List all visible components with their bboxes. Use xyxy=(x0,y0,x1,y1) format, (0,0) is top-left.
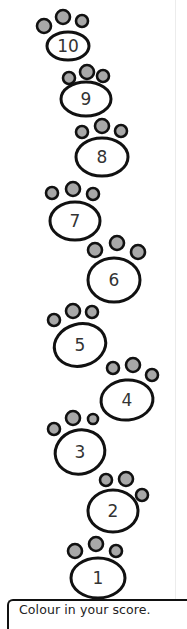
paw-print-2[interactable]: 2 xyxy=(88,472,148,532)
toe-icon xyxy=(110,545,122,557)
caption-text: Colour in your score. xyxy=(19,602,151,617)
paw-print-5[interactable]: 5 xyxy=(48,304,111,372)
toe-icon xyxy=(66,304,80,318)
toe-icon xyxy=(48,314,60,326)
score-number: 6 xyxy=(109,270,120,290)
toe-icon xyxy=(68,544,82,558)
toe-icon xyxy=(119,472,133,486)
toe-icon xyxy=(136,489,148,501)
paw-print-3[interactable]: 3 xyxy=(48,411,110,480)
toe-icon xyxy=(76,126,88,138)
toe-icon xyxy=(80,65,94,79)
toe-icon xyxy=(37,19,51,33)
toe-icon xyxy=(66,182,80,196)
toe-icon xyxy=(107,362,119,374)
toe-icon xyxy=(126,358,140,372)
paw-print-10[interactable]: 10 xyxy=(37,10,89,60)
toe-icon xyxy=(131,245,145,259)
toe-icon xyxy=(56,10,70,24)
score-number: 3 xyxy=(75,442,86,462)
toe-icon xyxy=(89,537,103,551)
toe-icon xyxy=(66,411,80,425)
toe-icon xyxy=(95,119,109,133)
score-number: 10 xyxy=(57,36,79,56)
toe-icon xyxy=(86,306,98,318)
toe-icon xyxy=(88,243,102,257)
score-number: 2 xyxy=(108,501,119,521)
toe-icon xyxy=(76,15,88,27)
paw-print-8[interactable]: 8 xyxy=(76,119,128,176)
score-number: 7 xyxy=(70,211,81,231)
paw-print-9[interactable]: 9 xyxy=(61,65,111,116)
toe-icon xyxy=(46,187,58,199)
toe-icon xyxy=(110,236,124,250)
score-number: 1 xyxy=(93,568,104,588)
toe-icon xyxy=(100,474,112,486)
toe-icon xyxy=(63,72,75,84)
toe-icon xyxy=(48,423,60,435)
score-number: 8 xyxy=(97,147,108,167)
paw-print-7[interactable]: 7 xyxy=(46,182,100,240)
paw-print-4[interactable]: 4 xyxy=(99,358,158,422)
score-number: 9 xyxy=(81,89,92,109)
toe-icon xyxy=(87,188,99,200)
score-number: 5 xyxy=(75,335,86,355)
toe-icon xyxy=(97,70,109,82)
toe-icon xyxy=(115,125,127,137)
paw-print-6[interactable]: 6 xyxy=(88,236,145,302)
toe-icon xyxy=(146,369,158,381)
paw-print-1[interactable]: 1 xyxy=(68,537,125,598)
score-number: 4 xyxy=(122,390,133,410)
toe-icon xyxy=(88,414,98,424)
